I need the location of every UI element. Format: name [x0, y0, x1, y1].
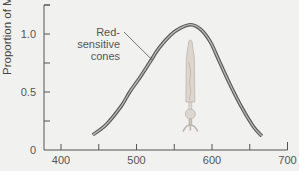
- x-tick-label: 600: [203, 154, 221, 166]
- annotation-leader-line: [124, 32, 152, 60]
- x-tick-label: 400: [52, 154, 70, 166]
- x-tick-label: 700: [278, 154, 296, 166]
- annotation-text: Red-: [96, 26, 120, 38]
- x-tick-label: 500: [127, 154, 145, 166]
- annotation-group: Red-sensitivecones: [77, 26, 152, 62]
- cone-synaptic-foot: [183, 119, 197, 131]
- y-tick-label: 0: [30, 144, 36, 156]
- axes: [44, 5, 288, 150]
- annotation-text: sensitive: [77, 38, 120, 50]
- cone-cell-illustration: [183, 40, 197, 131]
- y-axis-label: Proportion of M: [1, 0, 13, 75]
- ticks: 40050060070000.51.0: [21, 5, 297, 166]
- chart: 40050060070000.51.0 Red-sensitivecones P…: [0, 0, 299, 171]
- annotation-text: cones: [91, 50, 121, 62]
- y-tick-label: 0.5: [21, 86, 36, 98]
- y-tick-label: 1.0: [21, 28, 36, 40]
- cone-nucleus: [185, 109, 195, 119]
